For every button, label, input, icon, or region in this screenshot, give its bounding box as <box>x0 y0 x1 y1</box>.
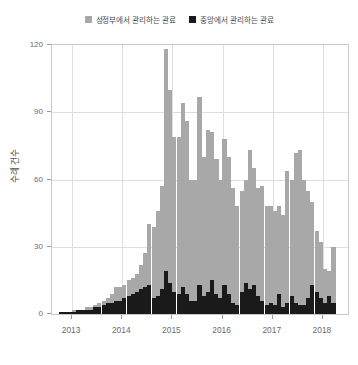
legend-item-gray[interactable]: 성정부에서 관리하는 관료 <box>85 14 176 25</box>
y-tick-label: 90 <box>17 107 43 116</box>
y-tick-label: 60 <box>17 174 43 183</box>
x-tick-mark <box>272 315 273 319</box>
chart-legend: 성정부에서 관리하는 관료 중앙에서 관리하는 관료 <box>0 14 358 25</box>
y-tick-label: 30 <box>17 241 43 250</box>
legend-swatch-black-icon <box>189 16 196 23</box>
x-tick-label: 2015 <box>151 325 191 335</box>
legend-swatch-gray-icon <box>85 16 92 23</box>
x-tick-label: 2013 <box>51 325 91 335</box>
bar-series-container <box>52 45 348 314</box>
x-tick-mark <box>71 315 72 319</box>
x-tick-mark <box>322 315 323 319</box>
x-tick-label: 2014 <box>101 325 141 335</box>
chart-root: 성정부에서 관리하는 관료 중앙에서 관리하는 관료 수례 건수 0306090… <box>0 0 358 365</box>
bar-column[interactable] <box>331 247 335 314</box>
x-tick-mark <box>171 315 172 319</box>
legend-item-black[interactable]: 중앙에서 관리하는 관료 <box>189 14 273 25</box>
legend-label-gray: 성정부에서 관리하는 관료 <box>96 14 176 25</box>
x-tick-label: 2016 <box>202 325 242 335</box>
plot-area <box>51 44 349 315</box>
x-tick-label: 2017 <box>252 325 292 335</box>
x-tick-label: 2018 <box>302 325 342 335</box>
x-tick-mark <box>121 315 122 319</box>
x-tick-mark <box>222 315 223 319</box>
y-tick-label: 0 <box>17 309 43 318</box>
bar-segment-black <box>331 303 335 314</box>
legend-label-black: 중앙에서 관리하는 관료 <box>200 14 273 25</box>
y-tick-label: 120 <box>17 40 43 49</box>
